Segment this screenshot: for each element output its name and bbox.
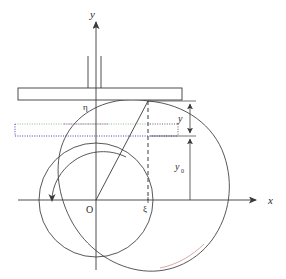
y0-dimension-label: y 0 [174, 161, 184, 174]
rotation-arrow [52, 152, 126, 200]
y0-dimension-label-base: y [174, 161, 180, 172]
radius-line [96, 101, 148, 200]
y-dimension-label: y [177, 113, 183, 124]
origin-label: O [86, 204, 93, 215]
figure-container: y x O η ξ y y 0 [0, 0, 286, 279]
x-axis-label: x [267, 194, 273, 206]
xi-label: ξ [143, 204, 147, 214]
outer-cardioid-curve-upper [58, 100, 148, 222]
eta-label: η [83, 102, 88, 112]
y0-dimension-label-sub: 0 [181, 168, 184, 174]
plate [18, 88, 182, 100]
rolling-circle-diagram: y x O η ξ y y 0 [0, 0, 286, 279]
y-axis-label: y [89, 8, 95, 20]
